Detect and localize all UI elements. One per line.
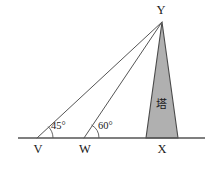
vertex-label-y: Y	[156, 3, 165, 17]
angle-label-45: 45°	[51, 120, 66, 131]
tower-label: 塔	[156, 98, 167, 111]
geometry-canvas: Y V W X 45° 60° 塔	[0, 0, 212, 170]
vertex-label-x: X	[157, 142, 166, 156]
geometry-figure: Y V W X 45° 60° 塔	[0, 0, 212, 170]
vertex-label-w: W	[79, 142, 91, 156]
vertex-label-v: V	[33, 142, 42, 156]
angle-label-60: 60°	[98, 120, 113, 131]
